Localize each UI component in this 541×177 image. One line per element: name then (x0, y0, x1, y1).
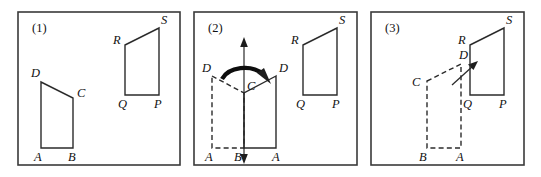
vertex-label-c: C (77, 86, 86, 100)
vertex-label-a: A (455, 150, 464, 164)
vertex-label-d: D (458, 48, 468, 62)
vertex-label-p: P (153, 97, 162, 111)
vertex-label-c-center: C (247, 79, 256, 93)
vertex-label-p: P (498, 97, 507, 111)
vertex-label-s: S (161, 13, 168, 27)
panel-2-number: (2) (208, 21, 223, 35)
vertex-label-p: P (331, 97, 340, 111)
vertex-label-a-left: A (204, 150, 213, 164)
vertex-label-s: S (506, 13, 513, 27)
vertex-label-a-right: A (271, 150, 280, 164)
vertex-label-q: Q (118, 97, 127, 111)
panel-3-number: (3) (385, 21, 400, 35)
vertex-label-r: R (112, 33, 121, 47)
vertex-label-b: B (419, 150, 427, 164)
vertex-label-r: R (457, 33, 466, 47)
transformation-figure: (1) A B C D Q P S R (2) (0, 0, 541, 177)
vertex-label-r: R (290, 33, 299, 47)
panel-2: (2) D A D A C B Q P S R (194, 12, 357, 165)
vertex-label-c: C (412, 75, 421, 89)
panel-1-number: (1) (32, 21, 47, 35)
vertex-label-b-center: B (234, 150, 242, 164)
figure-canvas: (1) A B C D Q P S R (2) (0, 0, 541, 177)
panel-1: (1) A B C D Q P S R (18, 12, 180, 165)
vertex-label-q: Q (296, 97, 305, 111)
vertex-label-d-right: D (278, 61, 288, 75)
vertex-label-a: A (33, 150, 42, 164)
vertex-label-q: Q (463, 97, 472, 111)
vertex-label-b: B (68, 150, 76, 164)
vertex-label-d: D (30, 66, 40, 80)
panel-3: (3) C D A B Q P S R (371, 12, 524, 165)
vertex-label-s: S (339, 13, 346, 27)
vertex-label-d-left: D (201, 61, 211, 75)
